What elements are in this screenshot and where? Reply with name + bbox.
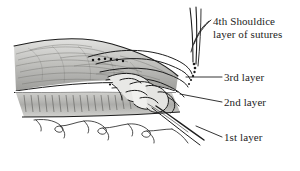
- free-suture-strands: [190, 7, 201, 66]
- label-3rd-layer: 3rd layer: [224, 71, 264, 84]
- medical-illustration-figure: 4th Shouldicelayer of sutures 3rd layer …: [0, 0, 300, 171]
- loose-connective-tissue: [34, 119, 188, 143]
- label-1st-layer: 1st layer: [224, 131, 262, 144]
- leader-2nd-layer: [180, 94, 222, 102]
- left-edge-fade-lower: [0, 88, 26, 122]
- label-2nd-layer: 2nd layer: [224, 96, 266, 109]
- leader-1st-layer: [196, 126, 222, 137]
- left-edge-fade-upper: [0, 36, 26, 96]
- label-4th-line1: 4th Shouldice: [213, 15, 275, 27]
- label-4th-line2: layer of sutures: [213, 28, 282, 40]
- label-4th-shouldice-layer: 4th Shouldicelayer of sutures: [213, 15, 282, 40]
